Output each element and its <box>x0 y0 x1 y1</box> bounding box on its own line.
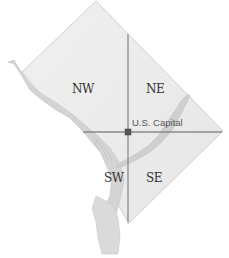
quadrant-label-se: SE <box>146 171 162 185</box>
capitol-label: U.S. Capital <box>132 117 183 128</box>
district-boundary <box>22 1 223 224</box>
quadrant-label-nw: NW <box>72 82 94 96</box>
capitol-marker-icon[interactable] <box>125 129 131 135</box>
dc-map <box>0 0 229 258</box>
quadrant-label-sw: SW <box>104 171 124 185</box>
quadrant-label-ne: NE <box>146 82 164 96</box>
